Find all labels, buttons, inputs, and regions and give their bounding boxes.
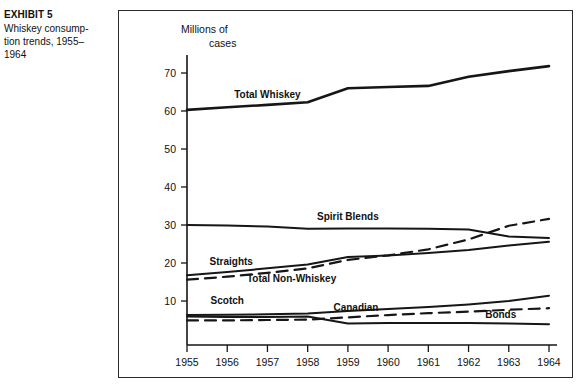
x-axis-tick-label: 1960 xyxy=(376,356,400,368)
y-axis-title-line1: Millions of xyxy=(181,23,228,35)
series-label-scotch: Scotch xyxy=(211,295,244,306)
exhibit-page: EXHIBIT 5 Whiskey consump- tion trends, … xyxy=(0,0,581,391)
x-axis-tick-label: 1961 xyxy=(417,356,441,368)
series-label-spirit-blends: Spirit Blends xyxy=(317,211,379,222)
y-axis-tick-label: 40 xyxy=(164,181,176,193)
y-axis-tick-label: 20 xyxy=(164,257,176,269)
series-label-total-non-whiskey: Total Non-Whiskey xyxy=(247,273,337,284)
series-label-bonds: Bonds xyxy=(485,309,517,320)
x-axis-tick-label: 1958 xyxy=(296,356,320,368)
y-axis-title-line2: cases xyxy=(209,37,236,49)
x-axis-tick-label: 1959 xyxy=(336,356,360,368)
line-chart: Millions ofcases102030405060701955195619… xyxy=(119,11,571,376)
exhibit-description: Whiskey consump- tion trends, 1955– 1964 xyxy=(4,22,112,61)
series-label-straights: Straights xyxy=(210,256,254,267)
series-label-canadian: Canadian xyxy=(333,302,378,313)
y-axis-tick-label: 60 xyxy=(164,105,176,117)
exhibit-caption: EXHIBIT 5 Whiskey consump- tion trends, … xyxy=(4,8,112,61)
x-axis-tick-label: 1956 xyxy=(216,356,240,368)
y-axis-tick-label: 70 xyxy=(164,67,176,79)
x-axis-tick-label: 1964 xyxy=(537,356,561,368)
x-axis-tick-label: 1955 xyxy=(175,356,199,368)
x-axis-tick-label: 1962 xyxy=(457,356,481,368)
exhibit-label: EXHIBIT 5 xyxy=(4,8,112,21)
y-axis-tick-label: 30 xyxy=(164,219,176,231)
y-axis-tick-label: 50 xyxy=(164,143,176,155)
y-axis-tick-label: 10 xyxy=(164,295,176,307)
chart-frame: Millions ofcases102030405060701955195619… xyxy=(118,10,573,378)
series-label-total-whiskey: Total Whiskey xyxy=(234,89,301,100)
x-axis-tick-label: 1957 xyxy=(256,356,280,368)
x-axis-tick-label: 1963 xyxy=(497,356,521,368)
